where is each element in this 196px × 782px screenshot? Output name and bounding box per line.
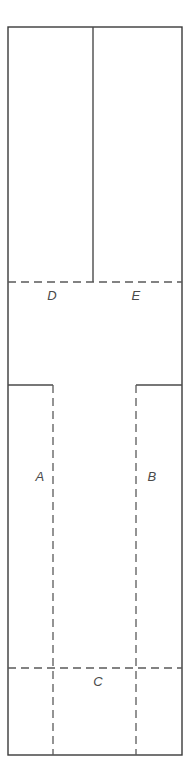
- zone-label-c: C: [93, 674, 103, 689]
- diagram-background: [0, 0, 196, 782]
- zone-label-b: B: [148, 469, 157, 484]
- floorplan-canvas: ABCDE: [0, 0, 196, 782]
- floorplan-diagram: ABCDE: [0, 0, 196, 782]
- zone-label-a: A: [35, 469, 45, 484]
- zone-label-d: D: [47, 288, 57, 303]
- zone-label-e: E: [132, 288, 141, 303]
